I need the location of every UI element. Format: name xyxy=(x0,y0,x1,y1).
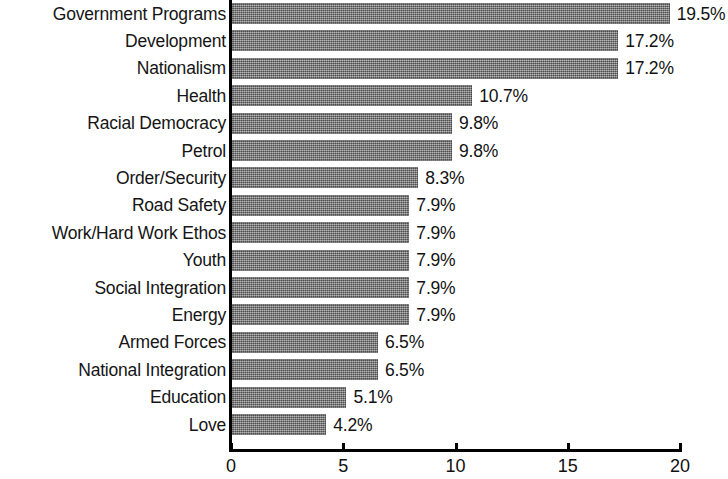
bar-row: Road Safety7.9% xyxy=(0,195,728,216)
chart-plot-area: Government Programs19.5%Development17.2%… xyxy=(0,0,728,451)
bar xyxy=(232,195,409,216)
x-tick-label: 15 xyxy=(548,455,588,477)
category-label: Nationalism xyxy=(0,58,226,78)
category-label: Government Programs xyxy=(0,4,226,24)
horizontal-bar-chart: Government Programs19.5%Development17.2%… xyxy=(0,0,728,479)
bar xyxy=(232,414,326,435)
x-tick-label: 10 xyxy=(436,455,476,477)
category-label: Education xyxy=(0,387,226,407)
category-label: Work/Hard Work Ethos xyxy=(0,223,226,243)
bar-value-label: 9.8% xyxy=(459,113,498,133)
bar-row: Racial Democracy9.8% xyxy=(0,113,728,134)
bar-row: Armed Forces6.5% xyxy=(0,332,728,353)
x-tick-mark xyxy=(342,443,345,451)
bar-value-label: 17.2% xyxy=(625,31,674,51)
bar-value-label: 9.8% xyxy=(459,141,498,161)
bar xyxy=(232,250,409,271)
bar-value-label: 5.1% xyxy=(353,387,392,407)
bar xyxy=(232,277,409,298)
bar xyxy=(232,58,618,79)
category-label: Youth xyxy=(0,250,226,270)
category-label: Energy xyxy=(0,305,226,325)
bar-row: Work/Hard Work Ethos7.9% xyxy=(0,222,728,243)
category-label: Road Safety xyxy=(0,195,226,215)
bar-value-label: 7.9% xyxy=(416,305,455,325)
x-tick-label: 20 xyxy=(660,455,700,477)
y-axis-line xyxy=(229,0,232,451)
x-tick-mark xyxy=(567,443,570,451)
bar-row: Government Programs19.5% xyxy=(0,3,728,24)
x-tick-label: 5 xyxy=(323,455,363,477)
category-label: Health xyxy=(0,86,226,106)
bar-row: Health10.7% xyxy=(0,85,728,106)
category-label: Petrol xyxy=(0,141,226,161)
bar-row: Love4.2% xyxy=(0,414,728,435)
bar xyxy=(232,140,452,161)
bar-value-label: 6.5% xyxy=(385,360,424,380)
bar-row: Development17.2% xyxy=(0,30,728,51)
category-label: National Integration xyxy=(0,360,226,380)
x-tick-mark xyxy=(455,443,458,451)
bar-row: Social Integration7.9% xyxy=(0,277,728,298)
category-label: Development xyxy=(0,31,226,51)
bar-value-label: 19.5% xyxy=(677,4,726,24)
bar-row: Order/Security8.3% xyxy=(0,167,728,188)
bar xyxy=(232,3,670,24)
bar xyxy=(232,167,418,188)
x-tick-mark xyxy=(679,443,682,451)
bar-value-label: 10.7% xyxy=(479,86,528,106)
bar xyxy=(232,304,409,325)
bar-row: Education5.1% xyxy=(0,387,728,408)
bar-row: National Integration6.5% xyxy=(0,359,728,380)
bar-value-label: 17.2% xyxy=(625,58,674,78)
category-label: Order/Security xyxy=(0,168,226,188)
bar-row: Youth7.9% xyxy=(0,250,728,271)
category-label: Social Integration xyxy=(0,278,226,298)
bar-row: Nationalism17.2% xyxy=(0,58,728,79)
bar-row: Petrol9.8% xyxy=(0,140,728,161)
bar xyxy=(232,85,472,106)
bar xyxy=(232,359,378,380)
bar xyxy=(232,222,409,243)
category-label: Love xyxy=(0,415,226,435)
bar-value-label: 7.9% xyxy=(416,250,455,270)
bar-value-label: 4.2% xyxy=(333,415,372,435)
x-tick-label: 0 xyxy=(211,455,251,477)
bar xyxy=(232,30,618,51)
bar-value-label: 8.3% xyxy=(425,168,464,188)
bar-value-label: 7.9% xyxy=(416,195,455,215)
bar xyxy=(232,387,346,408)
bar-value-label: 7.9% xyxy=(416,278,455,298)
category-label: Armed Forces xyxy=(0,332,226,352)
bar xyxy=(232,113,452,134)
bar-value-label: 7.9% xyxy=(416,223,455,243)
bar-row: Energy7.9% xyxy=(0,304,728,325)
x-tick-mark xyxy=(230,443,233,451)
bar-value-label: 6.5% xyxy=(385,332,424,352)
category-label: Racial Democracy xyxy=(0,113,226,133)
bar xyxy=(232,332,378,353)
